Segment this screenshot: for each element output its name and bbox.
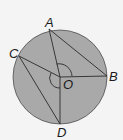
circle-diagram: A B C D O: [0, 0, 123, 140]
diagram-svg: A B C D O: [0, 0, 123, 140]
label-b: B: [109, 69, 118, 84]
label-o: O: [63, 77, 73, 92]
label-d: D: [57, 125, 66, 140]
label-a: A: [44, 15, 54, 30]
label-c: C: [9, 46, 19, 61]
